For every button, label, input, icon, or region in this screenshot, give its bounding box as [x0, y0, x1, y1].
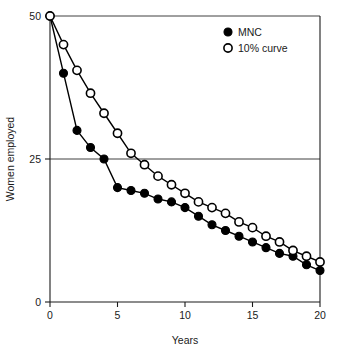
marker-0-1	[60, 69, 68, 77]
marker-0-8	[154, 195, 162, 203]
x-tick-label-20: 20	[314, 309, 326, 321]
legend-label-0: MNC	[238, 26, 262, 38]
marker-1-0	[46, 12, 54, 20]
marker-0-6	[127, 186, 135, 194]
marker-1-5	[113, 129, 121, 137]
marker-1-15	[248, 224, 256, 232]
marker-0-20	[316, 267, 324, 275]
marker-0-17	[276, 249, 284, 257]
chart-figure: 05101520 02550 Years Women employed MNC1…	[0, 0, 340, 351]
marker-0-14	[235, 232, 243, 240]
marker-1-17	[275, 238, 283, 246]
marker-0-5	[114, 184, 122, 192]
marker-1-12	[208, 204, 216, 212]
x-tick-label-0: 0	[47, 309, 53, 321]
marker-1-20	[316, 258, 324, 266]
marker-0-13	[222, 227, 230, 235]
marker-0-9	[168, 198, 176, 206]
y-tick-labels: 02550	[29, 10, 41, 308]
marker-1-9	[167, 181, 175, 189]
marker-1-19	[302, 252, 310, 260]
marker-1-16	[262, 232, 270, 240]
marker-0-7	[141, 189, 149, 197]
axis-ticks	[45, 16, 320, 307]
y-tick-label-0: 0	[35, 296, 41, 308]
x-axis-title: Years	[172, 334, 198, 346]
marker-1-8	[154, 172, 162, 180]
marker-0-11	[195, 212, 203, 220]
marker-1-10	[181, 189, 189, 197]
marker-0-16	[262, 244, 270, 252]
x-tick-label-15: 15	[247, 309, 259, 321]
x-tick-label-5: 5	[115, 309, 121, 321]
marker-0-4	[100, 155, 108, 163]
marker-0-10	[181, 204, 189, 212]
grid-lines	[50, 16, 320, 159]
marker-1-1	[59, 41, 67, 49]
marker-0-2	[73, 126, 81, 134]
marker-1-18	[289, 246, 297, 254]
x-tick-labels: 05101520	[47, 309, 326, 321]
y-axis-title: Women employed	[4, 117, 16, 202]
marker-0-3	[87, 144, 95, 152]
y-tick-label-25: 25	[29, 153, 41, 165]
marker-1-13	[221, 209, 229, 217]
marker-1-14	[235, 218, 243, 226]
y-tick-label-50: 50	[29, 10, 41, 22]
x-tick-label-10: 10	[179, 309, 191, 321]
legend-label-1: 10% curve	[238, 42, 288, 54]
marker-1-2	[73, 66, 81, 74]
chart-legend: MNC10% curve	[224, 26, 288, 54]
marker-1-3	[86, 89, 94, 97]
marker-1-6	[127, 149, 135, 157]
legend-marker-1	[224, 44, 232, 52]
marker-0-12	[208, 221, 216, 229]
legend-marker-0	[224, 28, 232, 36]
marker-0-15	[249, 238, 257, 246]
marker-1-11	[194, 198, 202, 206]
chart-canvas: 05101520 02550 Years Women employed MNC1…	[0, 0, 340, 351]
marker-1-4	[100, 109, 108, 117]
marker-1-7	[140, 161, 148, 169]
marker-0-19	[303, 261, 311, 269]
